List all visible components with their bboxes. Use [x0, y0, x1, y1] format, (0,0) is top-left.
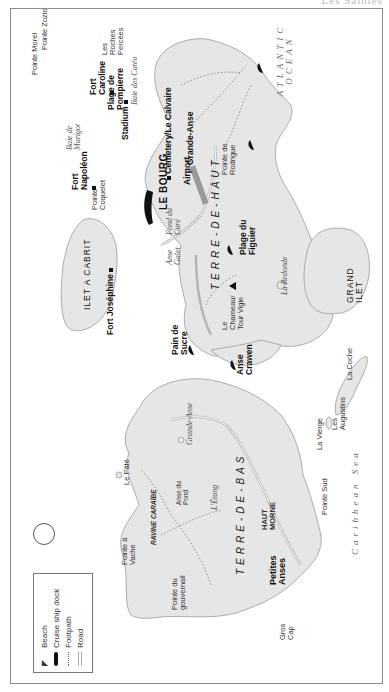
label-grande-anse: Grande-Anse: [186, 112, 195, 165]
rotated-map-canvas: ◤ Beach Cruise ship dock Footpath Road T…: [11, 9, 383, 684]
label-le-chameau: Le Chameau/ Tour Vigie: [221, 286, 245, 330]
grande-anse-bas-islet: [178, 437, 184, 443]
label-plage-pompierre: Plage de Pompierre: [107, 66, 125, 110]
label-anse-crawen: Anse Crawen: [236, 335, 254, 375]
label-baie-marigot: Baie de Marigot: [66, 110, 83, 150]
label-baie-cateau: Baie des Catéo: [131, 57, 139, 105]
label-la-redonde: La Redonde: [281, 257, 289, 295]
label-pointe-gouvernail: Pointe du gouvernail: [171, 566, 187, 610]
landmark-square-icon: [167, 176, 171, 180]
label-anse-pond: Anse du Pond: [176, 475, 190, 505]
legend-item-footpath: Footpath: [62, 580, 74, 666]
page-header: Les Saintes: [322, 0, 383, 6]
label-fond-cure: Fond du Curé: [166, 205, 183, 235]
label-la-coche: La Coche: [346, 348, 354, 380]
label-cemetery: Cemetery/Le Calvaire: [164, 87, 173, 180]
north-arrow-icon: [33, 523, 55, 545]
label-gros-cap: Gros Cap: [279, 620, 295, 640]
label-la-vierge: La Vierge: [316, 418, 324, 450]
beach-umbrella-icon: ◤: [40, 648, 49, 666]
label-le-pate: Le Pâté: [123, 459, 131, 485]
label-anse-galet: Anse Galet: [166, 235, 183, 265]
label-terre-de-bas: TERRE-DE-BAS: [236, 453, 247, 575]
cruise-ship-icon: [54, 648, 58, 666]
landmark-square-icon: [109, 268, 113, 272]
label-pointe-vache: Pointe à Vache: [121, 531, 137, 565]
label-plage-figuier: Plage du Figuier: [239, 215, 257, 255]
label-roches-percees: Les Roches Percées: [101, 19, 125, 55]
label-haut-morne: HAUT MORNE: [261, 500, 277, 530]
label-atlantic-ocean: ATLANTIC OCEAN: [276, 20, 295, 100]
label-ravine-caraibe: RAVINE CARAÏBE: [151, 490, 158, 546]
label-l-etang: L'Étang: [211, 485, 219, 510]
map-legend: ◤ Beach Cruise ship dock Footpath Road: [33, 573, 93, 673]
label-caribbean-sea: Caribbean Sea: [351, 449, 360, 555]
footpath-line-icon: [68, 648, 69, 666]
label-pain-de-sucre: Pain de Sucre: [171, 315, 189, 355]
label-ilet-a-cabrit: ILET A CABRIT: [83, 239, 92, 310]
label-pointe-zozio: Pointe Zozio: [41, 8, 49, 50]
legend-item-cruise-dock: Cruise ship dock: [50, 580, 62, 666]
label-fort-josephine: Fort Joséphine: [106, 268, 115, 335]
label-petites-anses: Petites Anses: [269, 551, 288, 585]
label-terre-de-haut: TERRE-DE-HAUT: [211, 156, 222, 290]
map-frame: ◤ Beach Cruise ship dock Footpath Road T…: [10, 8, 383, 684]
label-pointe-rodrigue: Pointe de Rodrigue: [221, 135, 237, 175]
cruise-ship-dock-icon: [144, 190, 153, 225]
label-grand-ilet: GRAND ILET: [346, 253, 364, 303]
label-grande-anse-bas: Grande-Anse: [186, 402, 194, 445]
label-pointe-morel: Pointe Morel: [31, 33, 39, 75]
beach-umbrella-icon: [188, 345, 194, 355]
legend-item-beach: ◤ Beach: [38, 580, 50, 666]
label-les-augustins: Les Augustins: [331, 396, 347, 430]
label-pointe-sud: Pointe Sud: [321, 478, 329, 515]
label-pointe-coquelet: Pointe Coquelet: [91, 170, 107, 210]
legend-item-road: Road: [74, 580, 86, 666]
road-line-icon: [78, 648, 82, 666]
